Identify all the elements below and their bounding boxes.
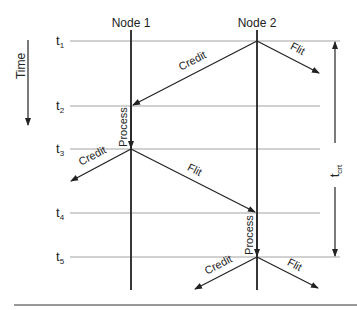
- flit-label-t5: Flit: [286, 256, 305, 273]
- process-label-node-2: Process: [243, 215, 255, 255]
- node-2-label: Node 2: [238, 16, 277, 30]
- node-1-label: Node 1: [112, 16, 151, 30]
- flit-arrow-t1: [257, 41, 319, 73]
- time-mark-labels: t1 t2 t3 t4 t5: [56, 33, 65, 266]
- flit-label-t1: Flit: [289, 40, 308, 57]
- time-mark-t3: t3: [56, 141, 65, 158]
- credit-arrow-t1: [133, 41, 257, 105]
- flit-label-t3: Flit: [186, 161, 205, 178]
- flit-arrow-t3: [131, 149, 255, 212]
- credit-label-t5: Credit: [202, 252, 234, 276]
- time-mark-t2: t2: [56, 98, 65, 115]
- time-axis-label: Time: [14, 53, 28, 80]
- time-lines: [70, 41, 340, 257]
- time-mark-t5: t5: [56, 249, 65, 266]
- time-axis: Time: [14, 40, 28, 125]
- round-trip-indicator: tcrt: [327, 42, 344, 256]
- process-label-node-1: Process: [117, 107, 129, 147]
- crt-label: tcrt: [327, 164, 344, 177]
- time-mark-t1: t1: [56, 33, 65, 50]
- time-mark-t4: t4: [56, 205, 65, 222]
- credit-flow-diagram: Time Node 1 Node 2 t1 t2 t3 t4 t5 Credit…: [0, 0, 357, 310]
